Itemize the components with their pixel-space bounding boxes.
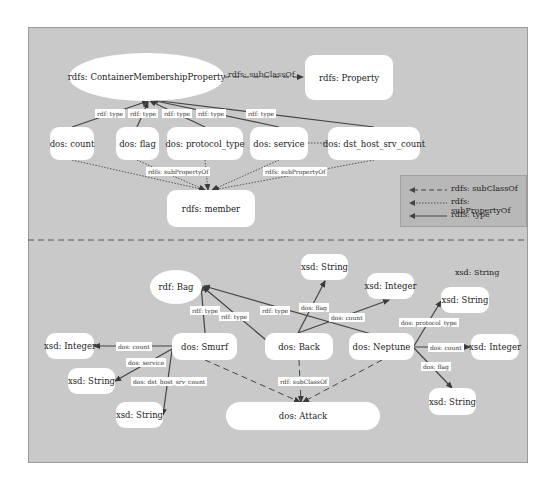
label-string-floating: xsd: String [455,268,499,277]
edge-label-back-count: dos: count [329,313,365,322]
node-service: dos: service [250,127,308,160]
node-integer-top: xsd: Integer [367,273,414,299]
edge-label-subprop-right: rdfs: subPropertyOf [263,167,327,176]
node-attack: dos: Attack [226,402,380,430]
edge-label-neptune-flag: dos: flag [421,362,451,371]
node-string-right-top: xsd: String [441,287,489,313]
node-protocol-type: dos: protocol_type [167,127,243,160]
edge-label-subclassof-top: rdfs: subClassOf [226,70,297,79]
edge-label-neptune-protocol: dos: protocol_type [399,318,459,327]
node-integer-left: xsd: Integer [46,333,94,359]
dashed-arrow-icon [409,186,449,194]
edge-label-back-type: rdf: type [219,312,249,321]
node-container-membership-property: rdfs: ContainerMembershipProperty [69,53,224,101]
legend-label: rdfs: subClassOf [451,184,518,193]
edge-label-smurf-count: dos: count [116,342,152,351]
legend-item-subclassof: rdfs: subClassOf [401,183,528,197]
edge-label-subprop-left: rdfs: subPropertyOf [146,167,210,176]
node-string-bottom-left: xsd: String [116,402,163,428]
edge-label-smurf-service: dos: service [126,358,166,367]
edge-label-type-service: rdf: type [196,109,226,118]
node-neptune: dos: Neptune [349,333,414,360]
dotted-arrow-icon [409,199,449,207]
solid-arrow-icon [409,212,449,220]
node-string-right-bottom: xsd: String [429,388,476,415]
legend-label: rdfs: type [451,210,490,219]
edge-label-type-protocol: rdf: type [162,109,192,118]
node-member: rdfs: member [167,190,255,227]
legend: rdfs: subClassOf rdfs: subPropertyOf rdf… [400,175,527,227]
edge-label-back-flag: dos: flag [299,303,329,312]
node-smurf: dos: Smurf [172,333,237,360]
node-back: dos: Back [265,333,333,360]
node-dst-host-srv-count: dos: dst_host_srv_count [328,127,420,160]
node-flag: dos: flag [116,127,159,160]
edge-label-subclassof-bottom: rdf: subClassOf [278,377,329,386]
edge-label-neptune-count: dos: count [428,343,464,352]
edge-label-smurf-dst: dos: dst_host_srv_count [131,377,207,386]
node-bag: rdf: Bag [150,270,202,304]
legend-item-type: rdfs: type [401,209,528,223]
edge-label-type-dst: rdf: type [246,109,276,118]
edge-label-neptune-type: rdf: type [260,306,290,315]
node-string-left: xsd: String [68,368,115,394]
node-count: dos: count [50,127,94,160]
edge-label-type-count: rdf: type [95,109,125,118]
legend-item-subpropertyof: rdfs: subPropertyOf [401,196,528,210]
node-string-top: xsd: String [301,254,348,280]
node-property: rdfs: Property [305,55,393,100]
node-integer-right: xsd: Integer [471,334,519,360]
edge-label-type-flag: rdf: type [128,109,158,118]
edge-label-smurf-type: rdf: type [190,306,220,315]
